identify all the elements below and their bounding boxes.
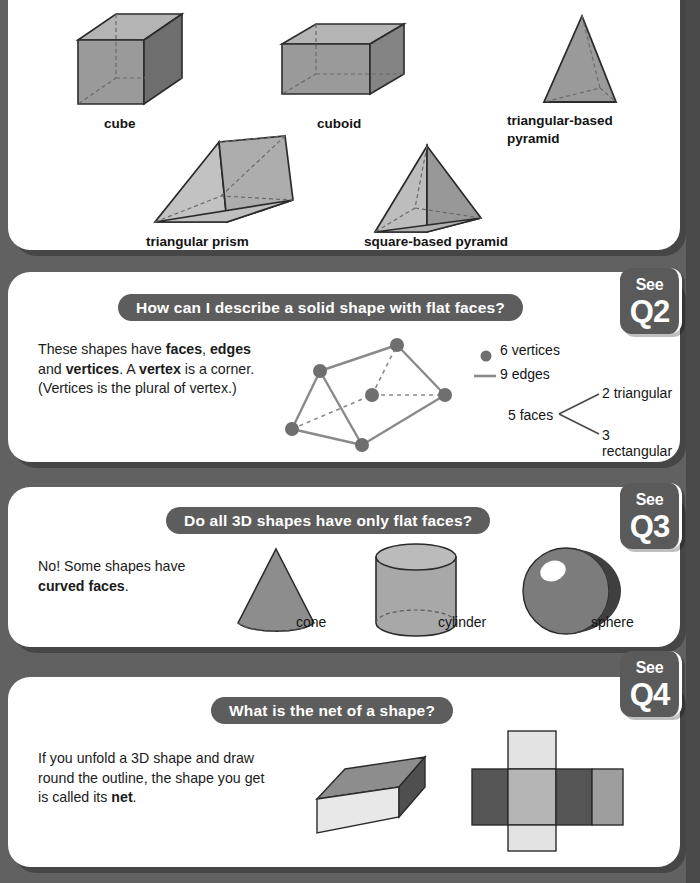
panel4-heading: What is the net of a shape? [211, 697, 453, 724]
see-badge-q4-q: Q4 [620, 676, 679, 710]
shape-label-triangular-prism: triangular prism [146, 233, 249, 251]
legend-faces-rectangular: 3 rectangular [602, 427, 680, 459]
shape-label-square-based-pyramid: square-based pyramid [364, 233, 508, 251]
see-badge-q4[interactable]: See Q4 [620, 651, 682, 717]
panel3-body-line1: No! Some shapes have [38, 558, 185, 574]
shape-label-cone: cone [296, 613, 326, 631]
panel2-bold-faces: faces [166, 341, 202, 357]
panel3-body: No! Some shapes have curved faces. [38, 557, 228, 596]
see-badge-q4-see: See [620, 651, 679, 676]
panel2-heading-text: How can I describe a solid shape with fl… [136, 299, 505, 317]
panel4-body: If you unfold a 3D shape and draw round … [38, 749, 278, 808]
see-badge-q3-q: Q3 [620, 508, 679, 542]
legend-vertices-label: 6 vertices [500, 342, 560, 358]
panel4-body-line2: round the outline, the shape you [38, 770, 241, 786]
legend-vertex-dot [478, 349, 494, 363]
legend-edges-label: 9 edges [500, 366, 550, 382]
panel2-bold-vertex: vertex [139, 361, 181, 377]
legend-faces-triangular: 2 triangular [602, 385, 672, 401]
shape-label-cube: cube [104, 115, 136, 133]
see-badge-q3-see: See [620, 483, 679, 508]
shape-cube [70, 12, 190, 112]
panel4-body-line3b: . [133, 789, 137, 805]
shape-net-cuboid [313, 755, 458, 845]
panel4-body-line1: If you unfold a 3D shape and draw [38, 750, 254, 766]
panel3-heading-text: Do all 3D shapes have only flat faces? [184, 512, 472, 530]
panel4-bold-net: net [111, 789, 132, 805]
panel2-body-e: (Vertices is the plural of vertex.) [38, 380, 237, 396]
diagram-cuboid-net [470, 729, 625, 854]
shape-cuboid [276, 22, 416, 112]
panel2-body-c: . A [119, 361, 139, 377]
shape-label-sphere: sphere [591, 613, 634, 631]
legend-faces-brace [557, 390, 605, 438]
diagram-prism-vertices [270, 337, 460, 452]
panel3-heading: Do all 3D shapes have only flat faces? [166, 507, 490, 534]
panel2-body-and: and [38, 361, 62, 377]
worksheet-page: cube cuboid triangular-based pyramid [0, 0, 700, 883]
panel2-body-a: These shapes have [38, 341, 166, 357]
page-gutter [686, 0, 700, 883]
panel-solid-shapes: cube cuboid triangular-based pyramid [8, 0, 680, 250]
shape-triangular-prism [143, 138, 303, 248]
panel2-bold-vertices: vertices [66, 361, 120, 377]
legend-faces-label: 5 faces [508, 407, 553, 423]
panel3-body-period: . [125, 578, 129, 594]
panel2-bold-edges: edges [210, 341, 251, 357]
see-badge-q2-see: See [620, 268, 679, 293]
see-badge-q2-q: Q2 [620, 293, 679, 327]
panel-curved-faces: Do all 3D shapes have only flat faces? S… [8, 487, 680, 647]
panel-flat-faces: How can I describe a solid shape with fl… [8, 272, 680, 462]
panel2-heading: How can I describe a solid shape with fl… [118, 294, 523, 321]
panel2-body-comma: , [202, 341, 210, 357]
shape-label-triangular-based-pyramid: triangular-based pyramid [507, 112, 635, 147]
panel2-body-d: is a corner. [181, 361, 254, 377]
panel-nets: What is the net of a shape? See Q4 If yo… [8, 677, 680, 867]
panel4-heading-text: What is the net of a shape? [229, 702, 435, 720]
see-badge-q2[interactable]: See Q2 [620, 268, 682, 334]
legend-edge-line [474, 372, 498, 380]
shape-label-cylinder: cylinder [438, 613, 486, 631]
shape-label-cuboid: cuboid [317, 115, 361, 133]
see-badge-q3[interactable]: See Q3 [620, 483, 682, 549]
panel2-body: These shapes have faces, edges and verti… [38, 340, 258, 399]
panel3-bold-curved-faces: curved faces [38, 578, 125, 594]
shape-triangular-based-pyramid [538, 14, 628, 114]
